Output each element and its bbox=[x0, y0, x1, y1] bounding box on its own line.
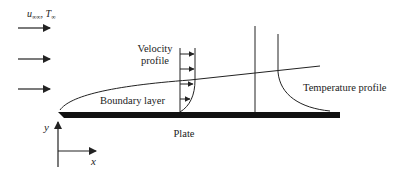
temperature-profile-curve bbox=[278, 34, 330, 111]
temperature-profile-label: Temperature profile bbox=[303, 82, 387, 93]
boundary-layer-label: Boundary layer bbox=[100, 95, 166, 106]
y-axis-label: y bbox=[43, 121, 49, 133]
velocity-profile-label-line2: profile bbox=[141, 55, 169, 66]
x-axis-label: x bbox=[90, 155, 96, 167]
plate bbox=[58, 112, 340, 118]
boundary-layer-edge bbox=[60, 66, 320, 110]
plate-label: Plate bbox=[174, 128, 195, 139]
freestream-label: u∞∞, T∞ bbox=[27, 8, 56, 20]
velocity-profile-label-line1: Velocity bbox=[138, 43, 174, 54]
freestream-arrows bbox=[18, 28, 50, 89]
boundary-layer-diagram: u∞∞, T∞ Velocity profile Boundary layer … bbox=[0, 0, 408, 177]
